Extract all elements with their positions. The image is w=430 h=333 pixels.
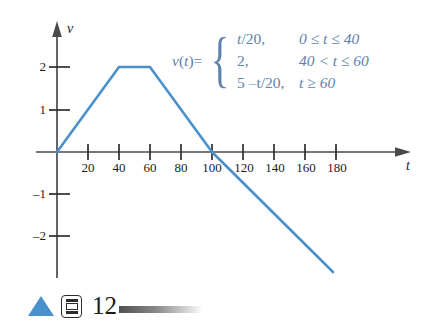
formula-row: 2, 40 < t ≤ 60 [237, 50, 369, 72]
figure-caption-row: 12 [28, 289, 203, 323]
formula-equals: = [194, 52, 203, 69]
caption-gradient-rule [119, 306, 203, 313]
y-tick-label: 1 [24, 102, 46, 118]
formula-expr-rest: /20, [241, 30, 265, 47]
formula-row: t/20, 0 ≤ t ≤ 40 [237, 28, 369, 50]
formula-left-hand-side: v(t)= [172, 50, 205, 72]
x-tick-label: 120 [234, 160, 254, 176]
formula-expr-rest: 5 –t/20, [237, 74, 284, 91]
formula-row-expression: 2, [237, 50, 299, 72]
figure-container: 20 40 60 80 100 120 140 160 180 2 1 –1 –… [0, 0, 430, 333]
x-tick-label: 80 [175, 160, 188, 176]
figure-marker-icon [61, 295, 82, 318]
x-tick-label: 100 [202, 160, 222, 176]
formula-row-condition: t ≥ 60 [299, 72, 335, 94]
piecewise-formula: v(t)= { t/20, 0 ≤ t ≤ 40 2, 40 < t ≤ 60 … [172, 28, 369, 94]
y-tick-label: –1 [24, 186, 46, 202]
figure-icon-bar-bottom [66, 311, 78, 314]
y-axis-label: v [67, 21, 73, 37]
y-tick-label: –2 [24, 228, 46, 244]
x-tick-label: 40 [113, 160, 126, 176]
x-axis-label: t [406, 158, 410, 174]
figure-icon-bar-top [66, 299, 78, 302]
plot-area: 20 40 60 80 100 120 140 160 180 2 1 –1 –… [0, 0, 430, 290]
x-tick-label: 180 [327, 160, 347, 176]
figure-icon-bar-middle [66, 303, 78, 310]
formula-row-condition: 0 ≤ t ≤ 40 [299, 28, 359, 50]
x-tick-label: 60 [144, 160, 157, 176]
y-tick-label: 2 [24, 59, 46, 75]
formula-row-expression: t/20, [237, 28, 299, 50]
x-tick-label: 140 [265, 160, 285, 176]
figure-number: 12 [92, 292, 117, 320]
formula-brace: { [211, 32, 229, 87]
formula-expr-rest: 2, [237, 52, 249, 69]
formula-row-expression: 5 –t/20, [237, 72, 299, 94]
x-tick-label: 20 [82, 160, 95, 176]
velocity-curve [57, 67, 333, 272]
x-axis [36, 147, 411, 157]
blue-triangle-icon [28, 296, 54, 316]
x-tick-label: 160 [296, 160, 316, 176]
formula-row-condition: 40 < t ≤ 60 [299, 50, 369, 72]
formula-row: 5 –t/20, t ≥ 60 [237, 72, 369, 94]
formula-rows: t/20, 0 ≤ t ≤ 40 2, 40 < t ≤ 60 5 –t/20,… [237, 28, 369, 94]
y-tick-labels: 2 1 –1 –2 [12, 0, 46, 290]
formula-v: v [172, 52, 179, 69]
